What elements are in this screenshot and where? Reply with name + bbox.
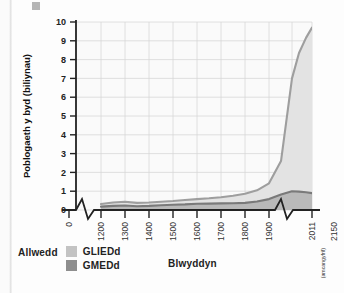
x-tick-label: 1400 [144,222,154,241]
x-tick-label: 1300 [120,222,130,241]
y-tick-label: 8 [61,55,66,65]
x-tick-label: 0 [64,222,74,227]
y-tick-label: 5 [61,111,66,121]
y-tick-label: 2 [61,168,66,178]
legend-title: Allwedd [18,247,58,258]
x-axis-ticks [69,210,312,218]
y-tick-label: 4 [61,130,66,140]
figure-container: 0 1 2 3 4 5 6 7 8 9 10 Poblogaeth y byd … [0,0,344,293]
x-axis-title: Blwyddyn [168,258,217,269]
x-tick-label: 1800 [240,222,250,241]
x-tick-estimate-note: (amcangyfrif) [320,248,326,279]
y-tick-label: 10 [56,17,66,27]
y-tick-label: 6 [61,92,66,102]
x-tick-label: 1200 [96,222,106,241]
legend-label-gliedd: GLIEDd [83,246,121,257]
x-tick-label: 2150 [329,222,339,241]
y-tick-label: 9 [61,36,66,46]
legend: Allwedd GLIEDd GMEDd [18,246,121,271]
y-axis-title: Poblogaeth y byd (biliynau) [21,54,32,178]
legend-swatch-gmedd [66,260,77,271]
x-tick-label: 1700 [216,222,226,241]
legend-item-gliedd[interactable]: GLIEDd [66,246,121,257]
legend-item-gmedd[interactable]: GMEDd [66,260,121,271]
legend-label-gmedd: GMEDd [83,260,120,271]
x-tick-label: 1600 [192,222,202,241]
y-tick-label: 1 [61,186,66,196]
y-tick-label: 7 [61,74,66,84]
x-tick-label: 1900 [264,222,274,241]
x-tick-label: 2011 [307,222,317,241]
legend-swatch-gliedd [66,246,77,257]
x-tick-label: 1500 [168,222,178,241]
y-tick-label: 3 [61,149,66,159]
y-tick-labels: 0 1 2 3 4 5 6 7 8 9 10 [56,17,66,215]
